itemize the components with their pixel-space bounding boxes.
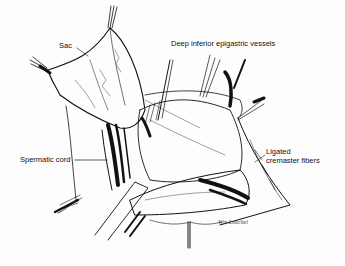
- illustration-canvas: Sac Deep inferior epigastric vessels Spe…: [0, 0, 345, 266]
- spermatic-cord-drawing: [102, 125, 130, 190]
- label-spermatic-cord: Spermatic cord: [20, 156, 70, 165]
- label-ligated-cremaster-fibers: Ligated cremaster fibers: [266, 148, 320, 165]
- label-ligated-line2: cremaster fibers: [266, 157, 320, 166]
- hernia-sac-drawing: [30, 6, 145, 128]
- label-sac: Sac: [59, 42, 72, 51]
- cremaster-fibers-drawing: [130, 170, 249, 215]
- label-deep-inferior-epigastric-vessels: Deep inferior epigastric vessels: [171, 40, 275, 49]
- artist-signature: Wm Loechel: [218, 219, 248, 225]
